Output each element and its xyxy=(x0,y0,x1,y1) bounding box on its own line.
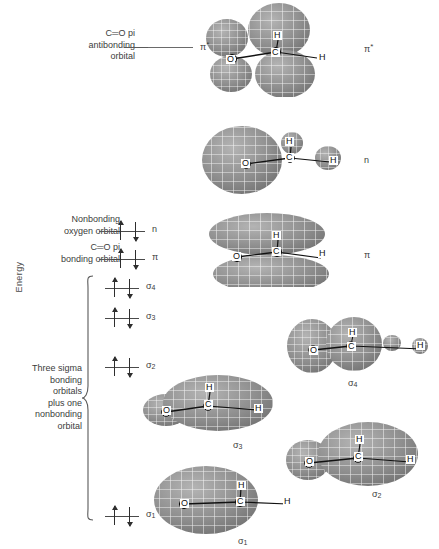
level-symbol-sigma4: σ4 xyxy=(146,281,155,291)
electron-arrow-down xyxy=(135,222,136,241)
label-nonbonding-oxygen-orbital: Nonbonding oxygen orbital xyxy=(10,214,120,237)
electron-arrow-down xyxy=(129,507,130,526)
electron-arrow-down xyxy=(129,309,130,328)
atom-label-c: C xyxy=(204,400,213,409)
atom-label-o: O xyxy=(180,499,189,508)
orbital-figure-n xyxy=(200,118,350,198)
orbital-caption-sigma2: σ2 xyxy=(372,489,381,499)
level-symbol-sigma2: σ2 xyxy=(146,360,155,370)
leader-line-pi-star xyxy=(124,47,148,48)
electron-arrow-down xyxy=(129,279,130,298)
orbital-figure-pi xyxy=(205,212,365,287)
orbital-figure-pi-star xyxy=(205,2,370,97)
electron-arrow-up xyxy=(114,357,115,376)
electron-arrow-up xyxy=(120,249,121,268)
atom-label-h: H xyxy=(318,249,327,258)
atom-label-h: H xyxy=(237,481,246,490)
atom-label-o: O xyxy=(241,159,250,168)
atom-label-c: C xyxy=(272,247,281,256)
electron-arrow-up xyxy=(114,506,115,525)
atom-label-h: H xyxy=(318,53,327,62)
atom-label-h: H xyxy=(285,137,294,146)
atom-label-h: H xyxy=(272,231,281,240)
arrowhead-icon xyxy=(112,277,118,282)
label-pi-star-orbital: C═O pi antibonding orbital xyxy=(20,28,135,63)
atom-label-h: H xyxy=(416,341,425,350)
level-symbol-pi: π xyxy=(152,252,158,262)
orbital-tag-n: n xyxy=(364,155,369,165)
atom-label-o: O xyxy=(232,252,241,261)
level-symbol-pi-star: π* xyxy=(200,40,209,52)
label-three-sigma-bracket: Three sigma bonding orbitals plus one no… xyxy=(10,363,82,432)
arrowhead-icon xyxy=(112,356,118,361)
atom-label-h: H xyxy=(348,328,357,337)
atom-label-h: H xyxy=(254,404,263,413)
leader-line-n xyxy=(99,231,111,232)
atom-label-h: H xyxy=(273,31,282,40)
orbital-caption-sigma1: σ1 xyxy=(238,536,247,546)
orbital-caption-sigma3: σ3 xyxy=(233,440,242,450)
arrowhead-icon xyxy=(133,265,139,270)
atom-label-c: C xyxy=(285,153,294,162)
atom-label-c: C xyxy=(236,497,245,506)
arrowhead-icon xyxy=(112,307,118,312)
orbital-caption-sigma4: σ4 xyxy=(348,378,357,388)
atom-label-o: O xyxy=(162,406,171,415)
orbital-tag-pi: π xyxy=(364,250,370,260)
arrowhead-icon xyxy=(127,373,133,378)
mo-energy-diagram: Energy xyxy=(0,0,439,549)
atom-label-c: C xyxy=(271,48,280,57)
electron-arrow-down xyxy=(129,358,130,377)
level-symbol-sigma3: σ3 xyxy=(146,311,155,321)
level-bar xyxy=(105,288,139,289)
level-bar xyxy=(105,318,139,319)
leader-line-pi xyxy=(99,259,111,260)
electron-arrow-up xyxy=(114,278,115,297)
atom-label-o: O xyxy=(309,346,318,355)
atom-label-o: O xyxy=(305,457,314,466)
atom-label-o: O xyxy=(226,55,235,64)
label-pi-bonding-orbital: C═O pi bonding orbital xyxy=(10,242,120,265)
atom-label-h: H xyxy=(329,156,338,165)
arrowhead-icon xyxy=(127,522,133,527)
level-symbol-sigma1: σ1 xyxy=(146,509,155,519)
atom-label-h: H xyxy=(406,455,415,464)
sigma-group-brace xyxy=(80,274,96,522)
atom-label-c: C xyxy=(354,452,363,461)
level-bar xyxy=(105,367,139,368)
arrowhead-icon xyxy=(127,324,133,329)
level-bar xyxy=(111,231,145,232)
arrowhead-icon xyxy=(118,220,124,225)
electron-arrow-down xyxy=(135,250,136,269)
atom-label-h: H xyxy=(355,435,364,444)
level-bar xyxy=(148,47,193,48)
orbital-figure-sigma1 xyxy=(148,462,293,540)
level-bar xyxy=(105,516,139,517)
atom-label-h: H xyxy=(283,497,292,506)
arrowhead-icon xyxy=(127,294,133,299)
atom-label-c: C xyxy=(347,342,356,351)
electron-arrow-up xyxy=(114,308,115,327)
orbital-tag-pi-star: π* xyxy=(364,42,373,54)
electron-arrow-up xyxy=(120,221,121,240)
arrowhead-icon xyxy=(118,248,124,253)
arrowhead-icon xyxy=(112,505,118,510)
atom-label-h: H xyxy=(205,383,214,392)
arrowhead-icon xyxy=(133,237,139,242)
level-bar xyxy=(111,259,145,260)
level-symbol-n: n xyxy=(152,224,157,234)
